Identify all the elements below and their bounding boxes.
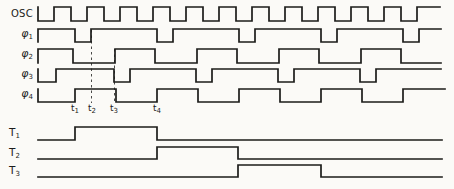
phi3-label: φ3 — [0, 68, 33, 81]
phi1-label: φ1 — [0, 28, 33, 41]
phi3-waveform — [38, 69, 441, 82]
osc-waveform — [38, 7, 440, 21]
phi2-waveform — [38, 49, 441, 63]
T2-waveform — [38, 147, 442, 159]
T1-waveform — [38, 127, 442, 140]
phi2-label: φ2 — [0, 48, 33, 61]
t3-time-marker: t3 — [104, 103, 124, 115]
phi4-label: φ4 — [0, 88, 33, 101]
t4-time-marker: t4 — [147, 103, 167, 115]
phi1-waveform — [38, 29, 441, 42]
timing-diagram: OSC φ1 φ2 φ3 φ4 T1 T2 T3 t1 t2 t3 t4 — [0, 0, 454, 189]
t2-time-marker: t2 — [82, 103, 102, 115]
t1-signal-label: T1 — [0, 126, 20, 140]
T3-waveform — [38, 165, 442, 177]
t3-signal-label: T3 — [0, 164, 20, 178]
waveform-canvas — [0, 0, 454, 189]
t2-signal-label: T2 — [0, 146, 20, 160]
phi4-waveform — [38, 89, 445, 102]
osc-label: OSC — [0, 8, 33, 21]
